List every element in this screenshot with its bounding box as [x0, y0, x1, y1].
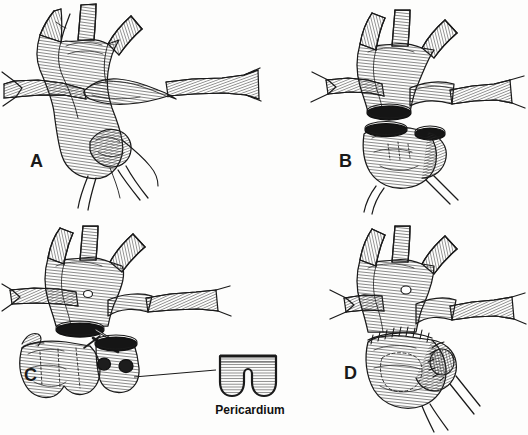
panel-b [264, 0, 528, 217]
left-carotid-artery [392, 226, 410, 262]
pericardium-label: Pericardium [175, 404, 325, 417]
main-pulmonary-artery [84, 79, 176, 104]
surgical-figure: A B C D Pericardium [0, 0, 528, 435]
panel-label-c: C [24, 366, 38, 384]
innominate-artery [360, 229, 385, 266]
right-pulmonary-artery [450, 76, 525, 108]
right-pulmonary-artery [146, 286, 231, 316]
right-pulmonary-artery [450, 293, 526, 324]
aortic-arch-right-limb [410, 82, 454, 106]
panel-label-a: A [30, 152, 44, 170]
distal-arch [45, 258, 124, 326]
left-carotid-artery [78, 4, 96, 40]
right-pulmonary-artery [166, 68, 261, 101]
transected-root-lumen-left [365, 122, 407, 137]
panel-label-d: D [344, 364, 358, 382]
transected-aorta-lumen-upper [367, 104, 411, 120]
aortic-arch-right-limb [416, 298, 456, 324]
tissue-flap [22, 333, 41, 346]
coronary-button-cylinder [95, 335, 139, 393]
left-carotid-artery [392, 10, 410, 46]
aortic-arch [357, 260, 434, 332]
innominate-artery [360, 13, 385, 50]
panel-a [0, 0, 264, 217]
panel-label-b: B [339, 152, 353, 170]
aortic-arch-right-limb [108, 294, 152, 316]
pericardium-inset [216, 352, 280, 398]
left-carotid-artery [80, 226, 98, 260]
panel-d [264, 218, 528, 435]
